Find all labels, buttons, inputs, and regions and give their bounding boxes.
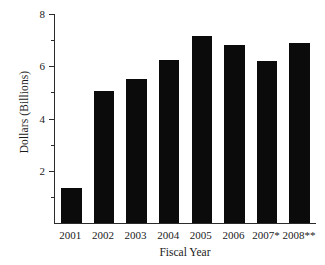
y-axis-minor-tick bbox=[51, 197, 54, 198]
x-axis-line bbox=[54, 223, 316, 224]
bar[interactable] bbox=[159, 60, 180, 223]
x-axis-tick-label: 2007* bbox=[250, 228, 283, 242]
x-axis-tick-label: 2006 bbox=[217, 228, 250, 242]
bar-slot bbox=[218, 14, 251, 223]
bars-layer bbox=[55, 14, 316, 223]
x-axis-tick-label: 2008** bbox=[282, 228, 315, 242]
y-axis-tick-label: 8 bbox=[40, 6, 46, 22]
y-axis-minor-tick bbox=[51, 40, 54, 41]
x-axis-tick-label: 2004 bbox=[152, 228, 185, 242]
x-axis-title: Fiscal Year bbox=[54, 245, 316, 259]
bar[interactable] bbox=[257, 61, 278, 223]
bar-slot bbox=[55, 14, 88, 223]
bar[interactable] bbox=[224, 45, 245, 223]
bar[interactable] bbox=[61, 188, 82, 223]
x-axis-tick-label: 2005 bbox=[185, 228, 218, 242]
bar-slot bbox=[120, 14, 153, 223]
y-axis-tick-label: 6 bbox=[40, 58, 46, 74]
y-axis-title: Dollars (Billions) bbox=[16, 22, 32, 202]
bar[interactable] bbox=[94, 91, 115, 223]
y-axis-major-tick: 2 bbox=[49, 171, 54, 172]
x-axis-tick-label: 2003 bbox=[119, 228, 152, 242]
x-axis-tick-label: 2002 bbox=[87, 228, 120, 242]
bar-slot bbox=[251, 14, 284, 223]
y-axis-major-tick: 6 bbox=[49, 66, 54, 67]
y-axis-major-tick: 4 bbox=[49, 119, 54, 120]
y-axis-major-tick: 8 bbox=[49, 14, 54, 15]
bar-slot bbox=[153, 14, 186, 223]
y-axis-tick-label: 4 bbox=[40, 111, 46, 127]
bar-slot bbox=[186, 14, 219, 223]
y-axis-minor-tick bbox=[51, 145, 54, 146]
plot-area: 2468 bbox=[54, 14, 316, 224]
bar[interactable] bbox=[192, 36, 213, 223]
y-axis-minor-tick bbox=[51, 92, 54, 93]
bar-chart-figure: Dollars (Billions) 2468 2001200220032004… bbox=[0, 0, 325, 265]
bar-slot bbox=[88, 14, 121, 223]
x-axis-tick-label: 2001 bbox=[54, 228, 87, 242]
bar[interactable] bbox=[126, 79, 147, 223]
bar[interactable] bbox=[289, 43, 310, 223]
x-axis-tick-labels: 2001200220032004200520062007*2008** bbox=[54, 228, 316, 244]
y-axis-tick-label: 2 bbox=[40, 163, 46, 179]
bar-slot bbox=[283, 14, 316, 223]
